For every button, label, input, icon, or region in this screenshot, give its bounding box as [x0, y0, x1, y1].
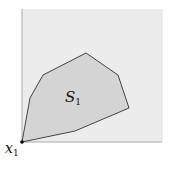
point-label-subscript: 1: [13, 148, 19, 158]
diagram-canvas: [0, 0, 171, 170]
point-label-x1: x1: [5, 140, 19, 156]
set-label-subscript: 1: [75, 97, 81, 107]
point-label-base: x: [5, 140, 13, 156]
set-label-s1: S1: [65, 88, 81, 106]
set-label-base: S: [65, 88, 75, 106]
point-x1-marker: [20, 140, 24, 144]
